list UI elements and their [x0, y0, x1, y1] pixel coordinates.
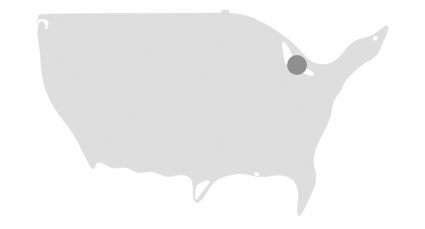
delaware-bay-notch — [345, 83, 349, 87]
us-land-group — [0, 0, 425, 229]
map-canvas — [0, 0, 425, 229]
us-map-figure — [0, 0, 425, 229]
us-mainland-shape — [38, 10, 389, 216]
location-marker[interactable] — [287, 55, 307, 75]
chesapeake-bay-notch — [336, 95, 341, 108]
markers-layer — [287, 55, 307, 75]
